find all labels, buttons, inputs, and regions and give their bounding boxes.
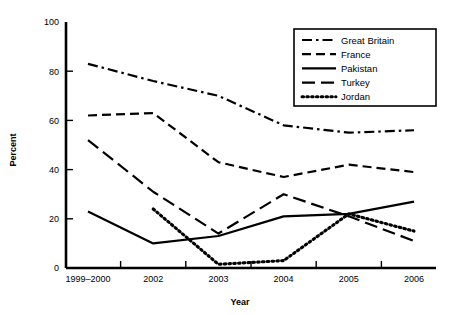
y-tick-label: 40 <box>49 165 59 175</box>
x-tick-label: 1999–2000 <box>65 274 110 284</box>
x-tick-label: 2003 <box>208 274 228 284</box>
legend-label-great-britain: Great Britain <box>341 35 394 46</box>
legend-label-pakistan: Pakistan <box>341 63 377 74</box>
x-tick-label: 2005 <box>339 274 359 284</box>
x-tick-label: 2002 <box>143 274 163 284</box>
x-axis-title: Year <box>230 297 250 307</box>
chart-canvas: 020406080100 1999–2000200220032004200520… <box>0 0 452 315</box>
x-tick-label: 2004 <box>274 274 294 284</box>
y-tick-label: 20 <box>49 214 59 224</box>
y-tick-label: 100 <box>44 17 59 27</box>
line-chart: 020406080100 1999–2000200220032004200520… <box>0 0 452 315</box>
legend-label-france: France <box>341 49 371 60</box>
y-axis-title: Percent <box>8 133 18 166</box>
y-tick-label: 60 <box>49 116 59 126</box>
y-tick-label: 0 <box>54 263 59 273</box>
x-tick-label: 2006 <box>404 274 424 284</box>
chart-legend: Great BritainFrancePakistanTurkeyJordan <box>294 29 436 106</box>
legend-label-turkey: Turkey <box>341 77 370 88</box>
legend-label-jordan: Jordan <box>341 91 370 102</box>
y-tick-label: 80 <box>49 67 59 77</box>
